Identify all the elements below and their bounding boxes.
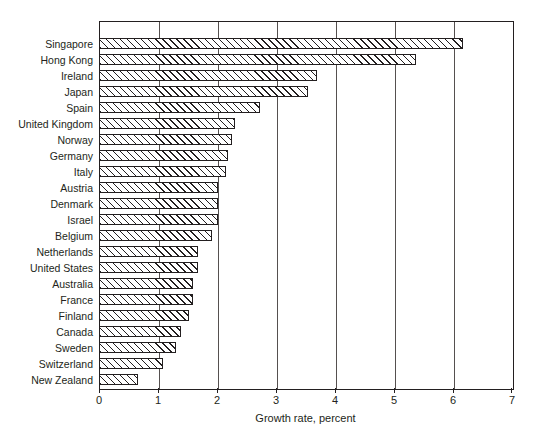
x-axis-tick-label: 0	[84, 393, 114, 407]
bar	[99, 166, 226, 177]
bar	[99, 86, 308, 97]
x-axis-tick-label: 2	[202, 393, 232, 407]
bar-row	[99, 276, 512, 292]
y-axis-label: Austria	[0, 180, 93, 196]
bar-row	[99, 196, 512, 212]
y-axis-label: Netherlands	[0, 244, 93, 260]
bar-row	[99, 84, 512, 100]
bar-row	[99, 228, 512, 244]
y-axis-label: Singapore	[0, 36, 93, 52]
bar-row	[99, 180, 512, 196]
x-axis-tick-labels: 01234567	[99, 393, 512, 409]
y-axis-category-labels: SingaporeHong KongIrelandJapanSpainUnite…	[0, 21, 93, 388]
bar-row	[99, 52, 512, 68]
bar-row	[99, 372, 512, 388]
bar	[99, 278, 193, 289]
bar-row	[99, 132, 512, 148]
bar	[99, 310, 189, 321]
bar	[99, 150, 228, 161]
bar-row	[99, 324, 512, 340]
bar-row	[99, 340, 512, 356]
bar	[99, 214, 218, 225]
bar	[99, 358, 163, 369]
y-axis-label: Hong Kong	[0, 52, 93, 68]
x-axis-tick-label: 6	[438, 393, 468, 407]
bar	[99, 134, 232, 145]
bar-row	[99, 148, 512, 164]
y-axis-label: Belgium	[0, 228, 93, 244]
bar	[99, 198, 218, 209]
y-axis-label: France	[0, 292, 93, 308]
bar	[99, 262, 198, 273]
bar-row	[99, 356, 512, 372]
x-axis-tick-label: 5	[379, 393, 409, 407]
bar-row	[99, 260, 512, 276]
bar-row	[99, 68, 512, 84]
x-axis-tick-label: 3	[261, 393, 291, 407]
bar	[99, 118, 235, 129]
bars-layer	[99, 21, 512, 388]
y-axis-label: Sweden	[0, 340, 93, 356]
y-axis-label: Italy	[0, 164, 93, 180]
x-axis-tick-label: 1	[143, 393, 173, 407]
bar	[99, 342, 176, 353]
bar-row	[99, 244, 512, 260]
y-axis-label: Israel	[0, 212, 93, 228]
bar-row	[99, 308, 512, 324]
bar-row	[99, 292, 512, 308]
bar	[99, 182, 218, 193]
bar	[99, 326, 181, 337]
y-axis-label: Australia	[0, 276, 93, 292]
bar-row	[99, 164, 512, 180]
y-axis-label: Denmark	[0, 196, 93, 212]
y-axis-label: Finland	[0, 308, 93, 324]
y-axis-label: United States	[0, 260, 93, 276]
y-axis-label: Norway	[0, 132, 93, 148]
bar	[99, 374, 138, 385]
bar	[99, 230, 212, 241]
x-axis-tick-label: 7	[497, 393, 527, 407]
y-axis-label: Germany	[0, 148, 93, 164]
y-axis-label: Switzerland	[0, 356, 93, 372]
x-axis-tick-label: 4	[320, 393, 350, 407]
bar	[99, 54, 416, 65]
y-axis-label: Spain	[0, 100, 93, 116]
bar	[99, 246, 198, 257]
bar	[99, 102, 260, 113]
y-axis-label: United Kingdom	[0, 116, 93, 132]
growth-rate-bar-chart: SingaporeHong KongIrelandJapanSpainUnite…	[0, 0, 533, 436]
bar-row	[99, 36, 512, 52]
y-axis-label: Canada	[0, 324, 93, 340]
x-axis-title: Growth rate, percent	[99, 412, 512, 424]
bar-row	[99, 100, 512, 116]
y-axis-label: Japan	[0, 84, 93, 100]
bar	[99, 38, 463, 49]
bar	[99, 70, 317, 81]
bar	[99, 294, 193, 305]
bar-row	[99, 212, 512, 228]
bar-row	[99, 116, 512, 132]
y-axis-label: Ireland	[0, 68, 93, 84]
y-axis-label: New Zealand	[0, 372, 93, 388]
